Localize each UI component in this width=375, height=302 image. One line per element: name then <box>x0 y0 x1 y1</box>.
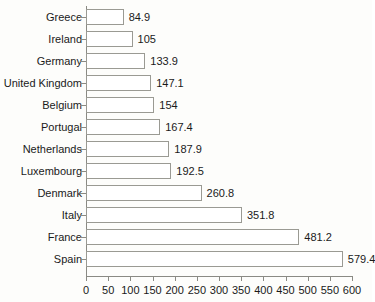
value-axis-tick-label: 300 <box>210 283 228 297</box>
bar-row: Luxembourg192.5 <box>0 160 372 182</box>
value-axis-tick <box>86 276 87 281</box>
value-axis-tick <box>219 276 220 281</box>
value-axis-tick-label: 450 <box>276 283 294 297</box>
bar-row: United Kingdom147.1 <box>0 72 372 94</box>
value-axis-tick-label: 0 <box>83 283 89 297</box>
bar <box>86 185 202 201</box>
bar <box>86 97 154 113</box>
category-label: Germany <box>37 50 82 72</box>
bar-row: Ireland105 <box>0 28 372 50</box>
bar-rows: Greece84.9Ireland105Germany133.9United K… <box>0 6 372 270</box>
value-axis-tick-label: 400 <box>254 283 272 297</box>
value-axis-tick-label: 200 <box>165 283 183 297</box>
value-axis-tick-label: 500 <box>298 283 316 297</box>
category-label: Luxembourg <box>21 160 82 182</box>
category-label: United Kingdom <box>4 72 82 94</box>
bar <box>86 251 343 267</box>
bar <box>86 141 169 157</box>
value-axis-tick <box>153 276 154 281</box>
bar <box>86 75 151 91</box>
bar-row: Denmark260.8 <box>0 182 372 204</box>
bar-row: Belgium154 <box>0 94 372 116</box>
value-axis-ticks <box>0 276 372 282</box>
category-label: Greece <box>46 6 82 28</box>
bar-row: Spain579.4 <box>0 248 372 270</box>
category-label: Netherlands <box>23 138 82 160</box>
category-label: France <box>48 226 82 248</box>
value-axis-tick <box>308 276 309 281</box>
bar <box>86 229 299 245</box>
bar-row: Italy351.8 <box>0 204 372 226</box>
bar-value-label: 133.9 <box>150 50 178 72</box>
category-label: Belgium <box>42 94 82 116</box>
value-axis-tick <box>130 276 131 281</box>
bar-row: France481.2 <box>0 226 372 248</box>
category-label: Spain <box>54 248 82 270</box>
value-axis-tick <box>352 276 353 281</box>
value-axis-tick-label: 250 <box>188 283 206 297</box>
bar-row: Greece84.9 <box>0 6 372 28</box>
value-axis-tick-label: 50 <box>102 283 114 297</box>
bar-value-label: 167.4 <box>165 116 193 138</box>
value-axis-tick <box>197 276 198 281</box>
value-axis-tick <box>330 276 331 281</box>
value-axis-tick-label: 600 <box>343 283 361 297</box>
bar <box>86 53 145 69</box>
bar-value-label: 481.2 <box>304 226 332 248</box>
bar-value-label: 351.8 <box>247 204 275 226</box>
bar <box>86 31 133 47</box>
value-axis-tick <box>263 276 264 281</box>
value-axis-tick-label: 100 <box>121 283 139 297</box>
value-axis-tick <box>108 276 109 281</box>
value-axis-tick <box>241 276 242 281</box>
value-axis-tick-labels: 050100150200250300350400450500550600 <box>0 283 372 299</box>
bar-row: Germany133.9 <box>0 50 372 72</box>
bar-value-label: 105 <box>138 28 156 50</box>
bar-value-label: 260.8 <box>207 182 235 204</box>
bar-value-label: 154 <box>159 94 177 116</box>
bar-value-label: 84.9 <box>129 6 150 28</box>
value-axis-tick-label: 350 <box>232 283 250 297</box>
category-label: Denmark <box>37 182 82 204</box>
value-axis-tick <box>286 276 287 281</box>
category-label: Ireland <box>48 28 82 50</box>
bar-row: Portugal167.4 <box>0 116 372 138</box>
bar-row: Netherlands187.9 <box>0 138 372 160</box>
category-label: Portugal <box>41 116 82 138</box>
bar <box>86 163 171 179</box>
bar-value-label: 579.4 <box>348 248 375 270</box>
bar <box>86 207 242 223</box>
value-axis-tick-label: 550 <box>321 283 339 297</box>
value-axis-tick-label: 150 <box>143 283 161 297</box>
bar-value-label: 187.9 <box>174 138 202 160</box>
category-label: Italy <box>62 204 82 226</box>
value-axis-tick <box>175 276 176 281</box>
bar-value-label: 147.1 <box>156 72 184 94</box>
bar-value-label: 192.5 <box>176 160 204 182</box>
bar <box>86 119 160 135</box>
bar <box>86 9 124 25</box>
